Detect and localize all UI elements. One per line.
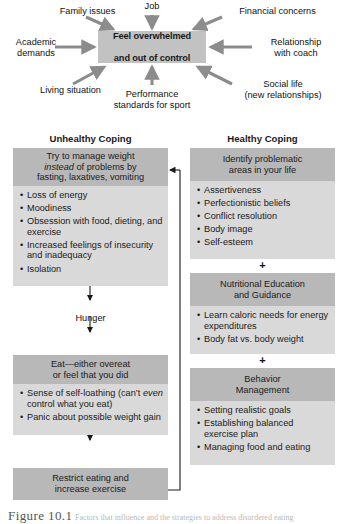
healthy-box2-line1: Nutritional Education	[220, 279, 305, 289]
arrow-living-situation	[73, 67, 104, 84]
stressor-performance-standards: Performance standards for sport	[96, 89, 208, 110]
list-item: Obsession with food, dieting, and exerci…	[20, 216, 163, 237]
healthy-box-1-header: Identify problematic areas in your life	[190, 148, 335, 181]
list-item: Perfectionistic beliefs	[197, 198, 330, 209]
unhealthy-list-2-panel: Sense of self-loathing (can’t even contr…	[13, 384, 168, 435]
healthy-list-1: Assertiveness Perfectionistic beliefs Co…	[190, 181, 335, 253]
list-item: Increased feelings of insecurity and ina…	[20, 240, 163, 261]
list-item: Self-esteem	[197, 237, 330, 248]
healthy-list-2: Learn caloric needs for energy expenditu…	[190, 306, 335, 350]
arrow-financial-concerns	[194, 17, 222, 29]
list-item: Managing food and eating	[197, 442, 330, 453]
unhealthy-box3-line1: Restrict eating and	[52, 473, 129, 483]
unhealthy-box2-line2: or feel that you did	[53, 370, 129, 380]
healthy-box-2-header: Nutritional Education and Guidance	[190, 273, 335, 306]
list-item: Assertiveness	[197, 185, 330, 196]
self-loathing-pre: Sense of self-loathing (can’t	[27, 388, 143, 398]
healthy-box-3-header: Behavior Management	[190, 368, 335, 401]
stressor-relationship-coach: Relationship with coach	[252, 37, 340, 58]
unhealthy-box-2-header: Eat—either overeat or feel that you did	[13, 355, 168, 384]
figure-10-1: Feel overwhelmed and out of control Fami…	[0, 0, 347, 524]
feedback-loop-line	[168, 170, 180, 490]
unhealthy-box1-line3: fasting, laxatives, vomiting	[37, 172, 144, 182]
figure-caption: Figure 10.1 Factors that influence and t…	[8, 508, 343, 524]
healthy-box3-line2: Management	[236, 385, 290, 395]
list-item: Learn caloric needs for energy expenditu…	[197, 310, 330, 331]
unhealthy-list-2: Sense of self-loathing (can’t even contr…	[13, 384, 168, 428]
healthy-box2-line2: and Guidance	[234, 290, 291, 300]
plus-separator-1: +	[190, 260, 335, 270]
figure-caption-number: Figure 10.1	[8, 508, 72, 523]
unhealthy-box-3-header: Restrict eating and increase exercise	[13, 468, 168, 500]
healthy-list-3-panel: Setting realistic goals Establishing bal…	[190, 401, 335, 465]
unhealthy-list-1-panel: Loss of energy Moodiness Obsession with …	[13, 186, 168, 286]
list-item: Body image	[197, 224, 330, 235]
list-item: Panic about possible weight gain	[20, 412, 163, 423]
central-box-line1: Feel overwhelmed	[113, 31, 191, 42]
plus-separator-2: +	[190, 355, 335, 365]
self-loathing-emphasis: even	[143, 388, 163, 398]
unhealthy-list-1: Loss of energy Moodiness Obsession with …	[13, 186, 168, 280]
unhealthy-box-1-header: Try to manage weight instead of problems…	[13, 148, 168, 186]
healthy-list-3: Setting realistic goals Establishing bal…	[190, 401, 335, 458]
list-item: Sense of self-loathing (can’t even contr…	[20, 388, 163, 409]
healthy-box1-line1: Identify problematic	[223, 154, 303, 164]
healthy-list-1-panel: Assertiveness Perfectionistic beliefs Co…	[190, 181, 335, 259]
healthy-list-2-panel: Learn caloric needs for energy expenditu…	[190, 306, 335, 354]
arrow-family-issues	[86, 17, 113, 29]
stressor-academic-demands: Academic demands	[5, 37, 67, 58]
list-item: Body fat vs. body weight	[197, 334, 330, 345]
unhealthy-box3-line2: increase exercise	[55, 484, 127, 494]
healthy-box1-line2: areas in your life	[229, 165, 296, 175]
list-item: Establishing balanced exercise plan	[197, 418, 330, 439]
list-item: Loss of energy	[20, 190, 163, 201]
stressor-financial-concerns: Financial concerns	[215, 6, 340, 17]
unhealthy-box1-emphasis: instead	[44, 162, 74, 172]
central-box-line2: and out of control	[113, 53, 191, 64]
list-item: Conflict resolution	[197, 211, 330, 222]
self-loathing-post: control what you eat)	[27, 399, 112, 409]
figure-caption-text: Factors that influence and the strategie…	[75, 513, 293, 522]
list-item: Setting realistic goals	[197, 405, 330, 416]
list-item: Isolation	[20, 264, 163, 275]
unhealthy-box2-line1: Eat—either overeat	[51, 359, 130, 369]
unhealthy-box1-line1: Try to manage weight	[46, 151, 134, 161]
stressor-social-life: Social life (new relationships)	[224, 79, 342, 100]
central-stressor-box: Feel overwhelmed and out of control	[98, 31, 206, 63]
list-item: Moodiness	[20, 203, 163, 214]
stressor-job: Job	[128, 1, 176, 12]
healthy-box3-line1: Behavior	[244, 374, 280, 384]
hunger-label: Hunger	[13, 313, 168, 323]
unhealthy-box1-line2-rest: of problems by	[74, 162, 137, 172]
